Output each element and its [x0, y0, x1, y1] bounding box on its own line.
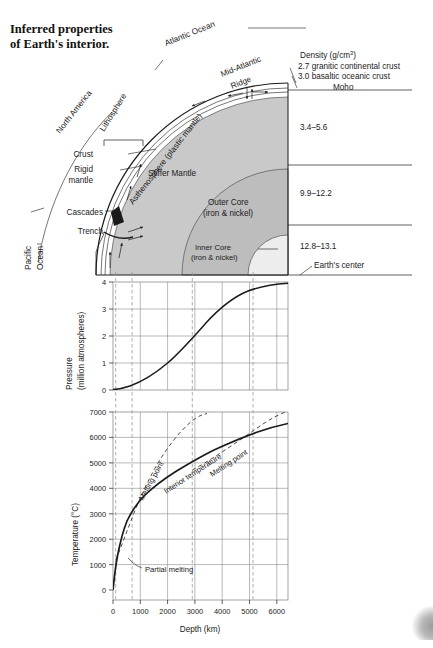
- label-rigid-mantle-line2: mantle: [68, 176, 93, 185]
- pressure-ytick-4: 4: [102, 278, 106, 287]
- density-heading: Density (g/cm3): [300, 50, 356, 60]
- page-title-line2: of Earth's interior.: [10, 37, 109, 51]
- basaltic-crust-leader: [292, 76, 297, 88]
- density-inner-core: 12.8–13.1: [300, 242, 337, 251]
- temperature-ytick-1000: 1000: [90, 561, 106, 570]
- pacific-ocean-tick: [31, 208, 44, 212]
- temperature-y-ticks: [109, 412, 113, 590]
- page-title-line1: Inferred properties: [10, 22, 113, 36]
- temperature-ytick-3000: 3000: [90, 510, 106, 519]
- pressure-ytick-1: 1: [102, 359, 106, 368]
- depth-xtick-2000: 2000: [159, 607, 175, 616]
- label-trench: Trench: [78, 227, 104, 236]
- atlantic-ocean-tick: [155, 60, 163, 70]
- depth-xtick-6000: 6000: [269, 607, 285, 616]
- depth-boundary-guides: [116, 272, 253, 600]
- depth-xtick-3000: 3000: [187, 607, 203, 616]
- page-corner-artifact: [411, 606, 433, 640]
- pressure-ytick-2: 2: [102, 332, 106, 341]
- label-stiffer-mantle: Stiffer Mantle: [148, 169, 197, 178]
- diagram-root: Inferred properties of Earth's interior.: [0, 0, 433, 648]
- temperature-gridlines: [113, 412, 288, 600]
- label-cascades: Cascades: [67, 208, 103, 217]
- depth-xtick-0: 0: [111, 607, 115, 616]
- crust-bracket: [104, 140, 143, 146]
- granitic-crust-leader: [290, 68, 296, 83]
- pressure-ytick-3: 3: [102, 305, 106, 314]
- earth-interior-figure: Inferred properties of Earth's interior.: [0, 0, 433, 648]
- temperature-axis-title: Temperature (°C): [71, 503, 80, 566]
- temperature-x-ticks: [113, 600, 277, 604]
- annotation-partial-melting: Partial melting: [145, 565, 193, 574]
- pressure-ytick-0: 0: [102, 386, 106, 395]
- label-atlantic-ocean: Atlantic Ocean: [163, 19, 216, 47]
- partial-melting-leader: [128, 558, 142, 568]
- pressure-axis-title-line1: Pressure: [65, 357, 74, 390]
- pressure-chart: 4 3 2 1 0 Pressure (million atmospheres): [65, 278, 288, 395]
- density-mantle: 3.4–5.6: [300, 123, 328, 132]
- density-outer-core: 9.9–12.2: [300, 189, 332, 198]
- pressure-y-ticks: [109, 282, 113, 390]
- depth-xtick-4000: 4000: [214, 607, 230, 616]
- label-north-america: North America: [54, 88, 93, 135]
- label-lithosphere: Lithosphere: [98, 92, 129, 133]
- interior-temperature-curve: [113, 424, 288, 591]
- label-mid-atlantic-ridge-line1: Mid-Atlantic: [219, 54, 262, 78]
- pressure-curve: [113, 283, 288, 389]
- depth-axis-title: Depth (km): [180, 625, 221, 634]
- temperature-ytick-5000: 5000: [90, 459, 106, 468]
- label-inner-core-line2: (iron & nickel): [191, 253, 238, 262]
- temperature-ytick-6000: 6000: [90, 433, 106, 442]
- label-pacific-ocean-line1: Pacific: [24, 246, 33, 270]
- label-outer-core-line1: Outer Core: [208, 198, 249, 207]
- temperature-chart: 7000 6000 5000 4000 3000 2000 1000 0 Tem…: [71, 408, 288, 634]
- label-pacific-ocean-line2: Ocean: [36, 245, 45, 270]
- depth-xtick-1000: 1000: [132, 607, 148, 616]
- label-moho: Moho: [333, 83, 354, 92]
- label-outer-core-line2: (iron & nickel): [203, 209, 253, 218]
- temperature-plot-frame: [113, 412, 288, 600]
- temperature-ytick-2000: 2000: [90, 535, 106, 544]
- label-earths-center: Earth's center: [314, 261, 365, 270]
- label-inner-core-line1: Inner Core: [195, 243, 231, 252]
- pressure-axis-title-line2: (million atmospheres): [77, 311, 86, 390]
- label-rigid-mantle-line1: Rigid: [74, 165, 93, 174]
- density-granitic-crust: 2.7 granitic continental crust: [298, 62, 401, 71]
- temperature-ytick-7000: 7000: [90, 408, 106, 417]
- melting-point-upper-curve: [116, 414, 207, 560]
- temperature-ytick-0: 0: [102, 586, 106, 595]
- density-basaltic-crust: 3.0 basaltic oceanic crust: [298, 72, 391, 81]
- pressure-gridlines: [113, 282, 288, 390]
- label-crust: Crust: [73, 150, 93, 159]
- earths-center-leader: [300, 266, 312, 275]
- earth-cross-section: Atlantic Ocean North America Lithosphere…: [24, 19, 412, 275]
- depth-xtick-5000: 5000: [241, 607, 257, 616]
- temperature-ytick-4000: 4000: [90, 484, 106, 493]
